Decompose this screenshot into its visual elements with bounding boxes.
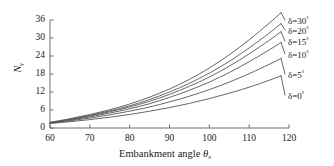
legend-item-label: δ=0 [288, 91, 302, 101]
legend-degree-symbol: ° [306, 25, 309, 32]
y-tick-label: 12 [18, 87, 45, 97]
x-axis-title: Embankment angle θs [40, 149, 290, 161]
data-curve-30 [50, 13, 281, 123]
legend-item-label: δ=20 [288, 26, 306, 36]
legend-item-label: δ=30 [288, 16, 306, 26]
y-axis-title-sub: γ [17, 63, 24, 66]
legend-item-label: δ=10 [288, 50, 306, 60]
y-tick-label: 6 [18, 105, 45, 115]
data-curve-10 [50, 43, 281, 123]
data-curves-group [50, 13, 285, 124]
x-axis-title-symbol-sub: s [208, 153, 211, 161]
legend-degree-symbol: ° [306, 49, 309, 56]
legend-item-delta-0: δ=0° [288, 91, 304, 101]
x-tick-label: 80 [115, 134, 145, 144]
legend-leader-line [281, 32, 285, 41]
x-tick-label: 70 [75, 134, 105, 144]
x-tick-label: 120 [274, 134, 304, 144]
x-tick-label: 100 [194, 134, 224, 144]
legend-item-delta-20: δ=20° [288, 26, 309, 36]
y-tick-label: 0 [18, 123, 45, 133]
legend-leader-line [281, 76, 285, 95]
y-tick-label: 30 [18, 33, 45, 43]
legend-item-label: δ=5 [288, 70, 302, 80]
y-tick-label: 18 [18, 69, 45, 79]
legend-degree-symbol: ° [306, 15, 309, 22]
y-tick-label: 24 [18, 51, 45, 61]
y-tick-label: 36 [18, 15, 45, 25]
x-tick-label: 110 [234, 134, 264, 144]
legend-leader-line [281, 13, 285, 20]
figure-container: Nγ Embankment angle θs 06121824303660708… [0, 0, 334, 166]
legend-degree-symbol: ° [302, 90, 305, 97]
x-tick-label: 60 [35, 134, 65, 144]
legend-item-label: δ=15 [288, 37, 306, 47]
legend-degree-symbol: ° [302, 69, 305, 76]
legend-leader-line [281, 43, 285, 55]
legend-degree-symbol: ° [306, 36, 309, 43]
data-curve-20 [50, 24, 281, 123]
legend-item-delta-5: δ=5° [288, 70, 304, 80]
legend-item-delta-15: δ=15° [288, 37, 309, 47]
x-axis-title-main: Embankment angle [119, 148, 200, 159]
data-curve-15 [50, 32, 281, 123]
legend-item-delta-10: δ=10° [288, 50, 309, 60]
legend-leader-line [281, 58, 285, 74]
x-tick-label: 90 [155, 134, 185, 144]
legend-leader-line [281, 24, 285, 30]
